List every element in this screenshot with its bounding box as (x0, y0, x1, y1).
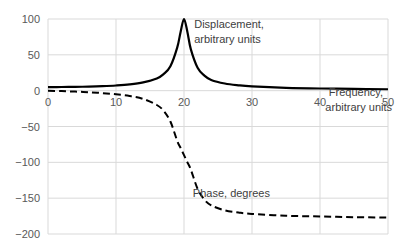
annotations: Displacement,arbitrary unitsFrequency,ar… (193, 18, 393, 199)
x-tick-label: 30 (246, 96, 258, 108)
y-axis-tick-labels: 100500−50−100−150−200 (15, 13, 40, 240)
y-tick-label: 100 (22, 13, 40, 25)
displacement-annotation: Displacement,arbitrary units (194, 18, 264, 45)
phase-annotation: Phase, degrees (193, 187, 271, 199)
y-tick-label: −200 (15, 228, 40, 240)
y-tick-label: 0 (34, 85, 40, 97)
x-tick-label: 20 (178, 96, 190, 108)
x-tick-label: 40 (314, 96, 326, 108)
x-tick-label: 0 (45, 96, 51, 108)
y-tick-label: −100 (15, 156, 40, 168)
y-tick-label: −150 (15, 192, 40, 204)
x-tick-label: 10 (110, 96, 122, 108)
gridlines (48, 19, 388, 234)
chart: 100500−50−100−150−200 01020304050 Displa… (0, 0, 397, 250)
y-tick-label: −50 (21, 121, 40, 133)
y-tick-label: 50 (28, 49, 40, 61)
